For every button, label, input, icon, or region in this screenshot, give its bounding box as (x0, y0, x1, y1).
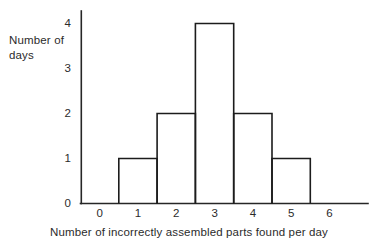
bar-bin-3 (195, 24, 233, 204)
y-tick-label-4: 4 (65, 17, 72, 29)
x-tick-label-4: 4 (250, 207, 257, 219)
x-tick-label-1: 1 (135, 207, 141, 219)
x-tick-label-0: 0 (96, 207, 102, 219)
bar-bin-4 (234, 114, 272, 204)
y-axis-title-line-2: days (9, 48, 64, 63)
bar-bin-1 (119, 159, 157, 204)
y-tick-label-0: 0 (65, 197, 71, 209)
bars-group (119, 24, 310, 204)
x-tick-label-3: 3 (211, 207, 217, 219)
x-tick-label-2: 2 (173, 207, 179, 219)
x-tick-labels: 0 1 2 3 4 5 6 (96, 207, 332, 219)
y-tick-label-1: 1 (65, 152, 71, 164)
x-tick-label-5: 5 (288, 207, 294, 219)
bar-bin-5 (272, 159, 310, 204)
y-tick-labels: 0 1 2 3 4 (65, 17, 72, 209)
x-tick-label-6: 6 (326, 207, 332, 219)
y-axis-title-line-1: Number of (9, 33, 64, 48)
histogram-figure: 0 1 2 3 4 0 1 2 3 4 5 6 Number of days N… (0, 0, 378, 248)
bar-bin-2 (157, 114, 195, 204)
y-tick-label-2: 2 (65, 107, 71, 119)
y-axis-title: Number of days (9, 33, 64, 62)
x-axis-title: Number of incorrectly assembled parts fo… (0, 226, 378, 238)
y-tick-label-3: 3 (65, 62, 71, 74)
